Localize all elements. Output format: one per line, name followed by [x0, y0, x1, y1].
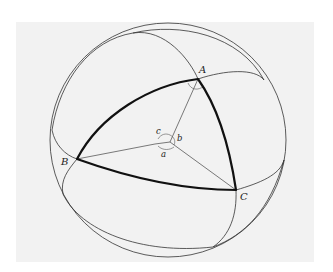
great-circle-bottom [63, 160, 284, 248]
great-circle-b-left [52, 130, 77, 159]
angle-label-c: c [156, 126, 161, 136]
angle-label-b: b [177, 133, 182, 143]
great-circle-ab-back [52, 32, 198, 130]
radius-oc [170, 142, 236, 190]
angle-label-a: a [161, 149, 166, 159]
great-circle-a-right [198, 72, 264, 80]
radius-ob [77, 144, 155, 159]
vertex-label-a: A [198, 64, 206, 75]
vertex-label-b: B [60, 156, 68, 167]
spherical-triangle-diagram: A B C c b a [0, 0, 333, 272]
great-circle-c-down [213, 190, 236, 247]
vertex-label-c: C [240, 191, 248, 202]
radius-center-link [155, 142, 170, 144]
